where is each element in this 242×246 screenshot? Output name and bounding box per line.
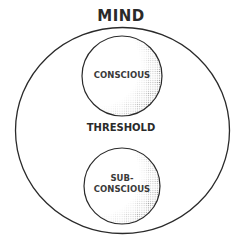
threshold-label: THRESHOLD bbox=[0, 123, 242, 133]
subconscious-label-line2: CONSCIOUS bbox=[82, 184, 162, 195]
diagram-title: MIND bbox=[0, 9, 242, 24]
mind-diagram: MIND CONSCIOUS THRESHOLD SUB- CONSCIOUS bbox=[0, 0, 242, 246]
conscious-label: CONSCIOUS bbox=[82, 71, 162, 80]
subconscious-label: SUB- CONSCIOUS bbox=[82, 173, 162, 195]
subconscious-label-line1: SUB- bbox=[82, 173, 162, 184]
